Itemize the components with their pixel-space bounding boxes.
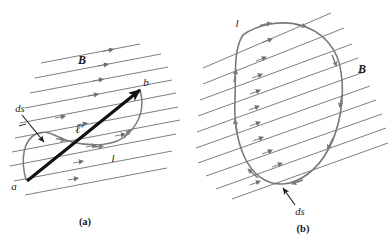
panel-a-point-a-label: a <box>11 180 17 192</box>
panel-a: B a b ℓ′ l ds (a) <box>10 44 180 228</box>
field-arrow <box>88 94 97 96</box>
field-line <box>25 168 167 195</box>
panel-a-field-label: B <box>77 53 86 67</box>
panel-a-ds-tick <box>19 124 26 126</box>
field-arrow <box>98 64 107 66</box>
panel-b: l B ds (b) <box>196 13 388 235</box>
field-arrow <box>250 123 259 126</box>
field-line <box>20 93 176 123</box>
field-line <box>14 151 172 181</box>
loop-arrow <box>235 121 237 132</box>
panel-a-caption: (a) <box>79 216 92 228</box>
panel-a-displacement-label: ℓ′ <box>75 122 83 136</box>
field-line <box>216 128 386 189</box>
field-arrow <box>249 107 258 110</box>
path-arrow <box>94 146 102 147</box>
field-line <box>10 134 176 166</box>
panel-a-element-label: ds <box>15 103 24 114</box>
loop-arrow <box>332 55 336 65</box>
field-line <box>41 44 140 63</box>
field-arrow <box>68 178 77 180</box>
field-line <box>196 86 370 148</box>
figure-root: B a b ℓ′ l ds (a) <box>0 0 391 238</box>
panel-a-path-label: l <box>111 152 114 164</box>
panel-b-field-lines <box>196 13 388 199</box>
field-arrow <box>262 39 271 42</box>
field-line <box>232 143 388 199</box>
field-arrow <box>250 91 259 94</box>
field-arrow <box>252 75 261 78</box>
panel-b-path-label: l <box>235 17 238 29</box>
panel-b-caption: (b) <box>297 223 310 235</box>
field-line <box>200 44 352 100</box>
panel-b-ds-leader <box>283 188 295 205</box>
panel-b-field-label: B <box>357 62 366 76</box>
field-line <box>198 100 376 163</box>
panel-a-point-b-label: b <box>143 76 149 88</box>
field-arrow <box>73 161 82 163</box>
field-line <box>25 80 172 108</box>
field-line <box>198 58 358 116</box>
field-arrow <box>55 116 64 118</box>
physics-figure-svg: B a b ℓ′ l ds (a) <box>0 0 391 238</box>
field-arrow <box>93 79 102 81</box>
field-line <box>206 114 382 176</box>
field-arrow <box>250 182 259 185</box>
field-arrow <box>115 134 124 136</box>
field-arrow <box>256 58 265 62</box>
panel-b-element-label: ds <box>295 206 304 217</box>
panel-b-field-arrowheads <box>249 39 281 185</box>
